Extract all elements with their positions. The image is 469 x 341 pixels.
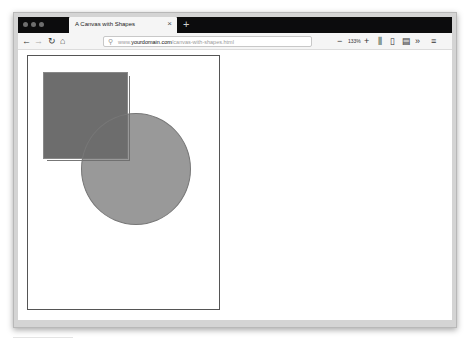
url-bar[interactable]: ⚲ www.yourdomain.com/canvas-with-shapes.… [103,36,312,47]
back-icon[interactable]: ← [22,35,31,47]
home-icon[interactable]: ⌂ [60,35,65,47]
navigation-toolbar: ← → ↻ ⌂ ⚲ www.yourdomain.com/canvas-with… [18,33,452,50]
reader-view-icon[interactable]: ▤ [402,35,411,47]
drawing-canvas[interactable] [27,55,220,310]
url-prefix: www. [118,39,131,45]
browser-window: A Canvas with Shapes × + ← → ↻ ⌂ ⚲ www.y… [13,12,457,328]
search-icon: ⚲ [108,37,113,47]
circle-shape [81,113,191,225]
overflow-menu-icon[interactable]: » [415,35,420,47]
library-icon[interactable]: ⫼ [378,35,382,47]
zoom-out-button[interactable]: − [337,35,342,47]
minimize-window-button[interactable] [31,22,36,27]
maximize-window-button[interactable] [39,22,44,27]
hamburger-menu-icon[interactable]: ≡ [431,35,436,47]
zoom-level[interactable]: 133% [348,38,361,44]
tab-title: A Canvas with Shapes [75,21,135,27]
forward-icon[interactable]: → [34,35,43,47]
close-window-button[interactable] [23,22,28,27]
decorative-divider [13,337,73,338]
sidebar-icon[interactable]: ▯ [390,35,395,47]
reload-icon[interactable]: ↻ [48,35,56,47]
tab-canvas-with-shapes[interactable]: A Canvas with Shapes × [69,17,177,33]
url-domain: yourdomain.com [131,39,172,45]
tab-bar: A Canvas with Shapes × + [18,17,452,33]
url-text[interactable]: www.yourdomain.com/canvas-with-shapes.ht… [118,38,234,46]
url-path: /canvas-with-shapes.html [172,39,234,45]
new-tab-button[interactable]: + [183,18,189,30]
zoom-in-button[interactable]: + [364,35,369,47]
close-icon[interactable]: × [167,19,172,29]
page-content [18,50,452,320]
